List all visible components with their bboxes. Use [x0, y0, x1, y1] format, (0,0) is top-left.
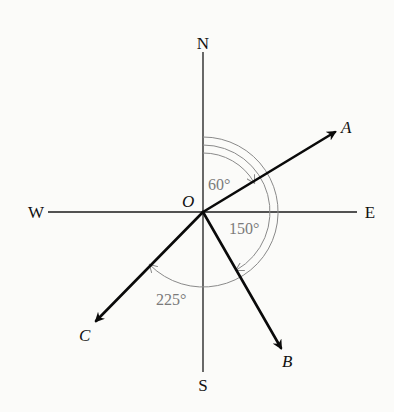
vector-c-label: C — [79, 326, 91, 345]
angle-label-150: 150° — [229, 220, 259, 237]
south-label: S — [198, 376, 207, 395]
vector-a-label: A — [340, 118, 352, 137]
east-label: E — [365, 203, 375, 222]
origin-label: O — [182, 192, 194, 211]
angle-label-225: 225° — [156, 291, 186, 308]
west-label: W — [28, 203, 45, 222]
angle-label-60: 60° — [208, 176, 230, 193]
diagram-canvas: N S W E A B C O 60° 150° 225° — [0, 0, 394, 412]
compass-diagram: N S W E A B C O 60° 150° 225° — [0, 0, 394, 412]
vector-b-label: B — [282, 352, 293, 371]
north-label: N — [197, 34, 209, 53]
vector-c — [96, 212, 203, 321]
